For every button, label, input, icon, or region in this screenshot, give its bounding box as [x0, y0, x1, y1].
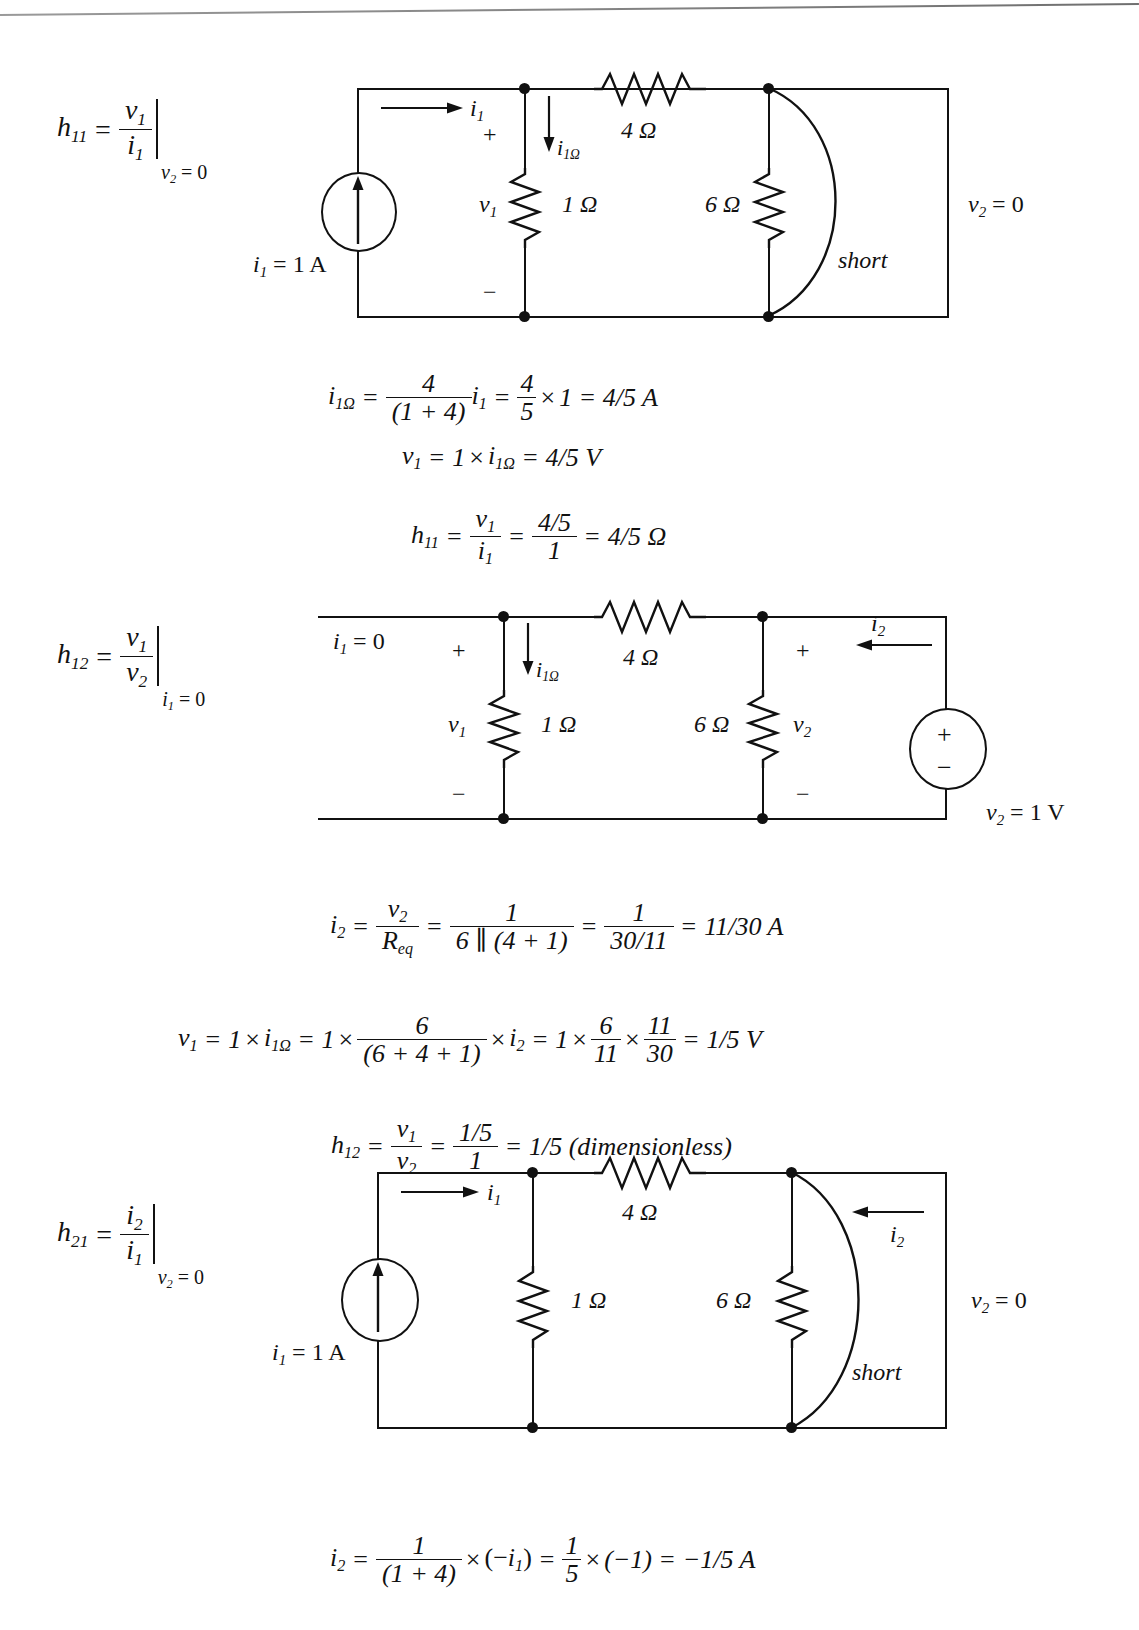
right-vertical — [945, 1172, 947, 1429]
shunt1-wire-top — [532, 1172, 534, 1268]
den: (1 + 4) — [376, 1559, 462, 1587]
document-page: h11 = v1 i1 v2 = 0 i1 = 1 A — [0, 0, 1139, 1630]
shunt1-wire-bottom — [532, 1346, 534, 1429]
current-arrow-i1-icon — [401, 1184, 479, 1200]
den: 5 — [562, 1559, 581, 1587]
neg-i1: (−i1) — [485, 1544, 532, 1575]
label-i1: i1 — [487, 1180, 501, 1208]
fraction-1-over-1plus4: 1 (1 + 4) — [376, 1532, 462, 1588]
current-arrow-i2-icon — [852, 1204, 924, 1220]
source-label-i1: i1 = 1 A — [272, 1340, 346, 1368]
fraction-1-over-5: 1 5 — [562, 1532, 581, 1588]
label-i2: i2 — [890, 1222, 904, 1250]
source-arrow-up-icon — [366, 1262, 390, 1334]
equation-i2-h21: i2 = 1 (1 + 4) × (−i1) = 1 5 × (−1) = −1… — [330, 1532, 755, 1588]
resistor-4ohm — [594, 1154, 706, 1192]
left-vertical-bottom — [377, 1337, 379, 1429]
label-short: short — [852, 1360, 901, 1384]
result: −1/5 A — [683, 1546, 756, 1573]
label-v2-zero: v2 = 0 — [971, 1288, 1027, 1316]
num: 1 — [376, 1532, 462, 1559]
resistor-1ohm — [515, 1266, 551, 1348]
times-value: (−1) — [604, 1546, 652, 1573]
left-vertical-top — [377, 1172, 379, 1260]
label-6ohm: 6 Ω — [716, 1288, 751, 1312]
circuit-h21: i1 = 1 A i1 1 Ω 4 Ω — [0, 0, 1139, 1500]
num: 1 — [562, 1532, 581, 1559]
label-4ohm: 4 Ω — [622, 1200, 657, 1224]
lhs: i2 — [330, 1544, 345, 1575]
top-rail-left — [377, 1172, 595, 1174]
label-1ohm: 1 Ω — [571, 1288, 606, 1312]
